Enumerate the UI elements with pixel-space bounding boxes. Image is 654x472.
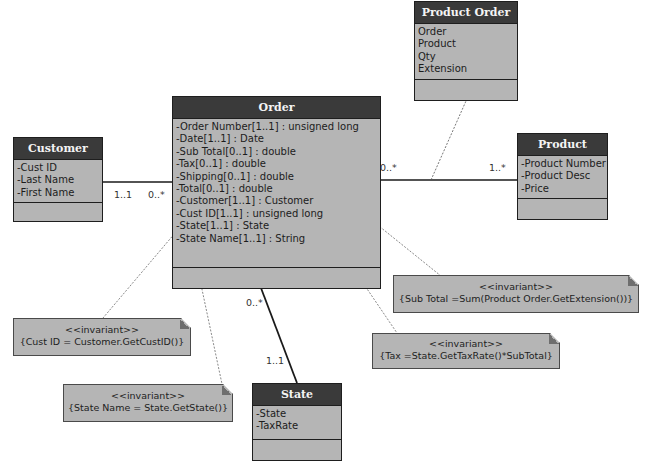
association-order-state (261, 288, 297, 383)
multiplicity-order-state-end: 0..* (246, 297, 263, 308)
attribute: -First Name (17, 187, 99, 199)
attribute: -Customer[1..1] : Customer (176, 195, 377, 207)
attribute: -Product Desc (521, 170, 604, 182)
note-stereotype: <<invariant>> (14, 324, 190, 336)
note-constraint: {Cust ID = Customer.GetCustID()} (14, 336, 190, 348)
multiplicity-customer-end: 1..1 (114, 189, 132, 200)
note-constraint: {State Name = State.GetState()} (64, 402, 232, 414)
class-state-attributes: -State -TaxRate (253, 406, 341, 440)
attribute: -Sub Total[0..1] : double (176, 146, 377, 158)
class-customer-name: Customer (14, 138, 102, 160)
note-custid-invariant[interactable]: <<invariant>> {Cust ID = Customer.GetCus… (13, 318, 191, 356)
attribute: Qty (418, 51, 514, 63)
multiplicity-product-end: 1..* (489, 162, 506, 173)
note-constraint: {Tax =State.GetTaxRate()*SubTotal} (373, 350, 559, 362)
attribute: -Order Number[1..1] : unsigned long (176, 121, 377, 133)
class-order[interactable]: Order -Order Number[1..1] : unsigned lon… (172, 96, 381, 289)
class-product[interactable]: Product -Product Number -Product Desc -P… (517, 133, 608, 220)
note-tax-invariant[interactable]: <<invariant>> {Tax =State.GetTaxRate()*S… (372, 333, 560, 369)
attribute: -Total[0..1] : double (176, 183, 377, 195)
class-order-attributes: -Order Number[1..1] : unsigned long -Dat… (173, 119, 380, 268)
class-order-name: Order (173, 97, 380, 119)
note-stereotype: <<invariant>> (64, 390, 232, 402)
attribute: -State[1..1] : State (176, 220, 377, 232)
multiplicity-order-customer-end: 0..* (148, 189, 165, 200)
class-customer-attributes: -Cust ID -Last Name -First Name (14, 160, 102, 203)
class-state[interactable]: State -State -TaxRate (252, 383, 342, 461)
association-class-link (431, 101, 466, 180)
attribute: -Cust ID (17, 162, 99, 174)
attribute: Product (418, 38, 514, 50)
class-product-order[interactable]: Product Order Order Product Qty Extensio… (414, 1, 518, 101)
class-customer[interactable]: Customer -Cust ID -Last Name -First Name (13, 137, 103, 222)
attribute: -State (256, 408, 338, 420)
attribute: -Product Number (521, 158, 604, 170)
attribute: -Date[1..1] : Date (176, 133, 377, 145)
note-stereotype: <<invariant>> (394, 281, 638, 293)
attribute: -State Name[1..1] : String (176, 233, 377, 245)
note-statename-invariant[interactable]: <<invariant>> {State Name = State.GetSta… (63, 384, 233, 422)
class-state-name: State (253, 384, 341, 406)
note-constraint: {Sub Total =Sum(Product Order.GetExtensi… (394, 293, 638, 305)
attribute: -Cust ID[1..1] : unsigned long (176, 208, 377, 220)
attribute: Order (418, 26, 514, 38)
attribute: -Price (521, 183, 604, 195)
multiplicity-state-end: 1..1 (266, 355, 284, 366)
class-product-order-attributes: Order Product Qty Extension (415, 24, 517, 80)
multiplicity-order-product-end: 0..* (380, 162, 397, 173)
attribute: -Last Name (17, 174, 99, 186)
attribute: -TaxRate (256, 420, 338, 432)
class-product-name: Product (518, 134, 607, 156)
note-subtotal-invariant[interactable]: <<invariant>> {Sub Total =Sum(Product Or… (393, 275, 639, 313)
attribute: Extension (418, 63, 514, 75)
note-anchor-custid (103, 226, 181, 318)
attribute: -Shipping[0..1] : double (176, 171, 377, 183)
attribute: -Tax[0..1] : double (176, 158, 377, 170)
class-product-order-name: Product Order (415, 2, 517, 24)
class-product-attributes: -Product Number -Product Desc -Price (518, 156, 607, 199)
note-stereotype: <<invariant>> (373, 338, 559, 350)
